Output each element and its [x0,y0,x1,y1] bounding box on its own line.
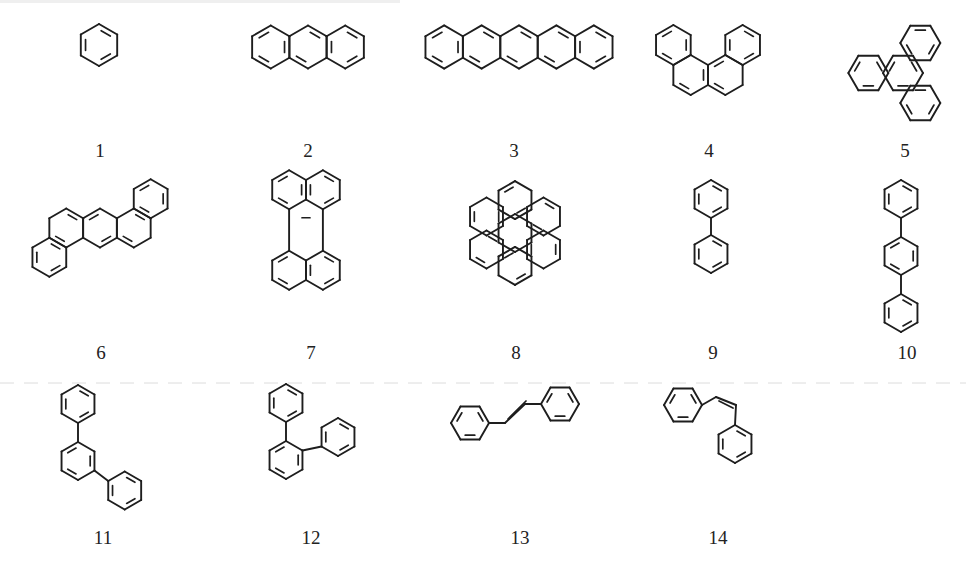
bond [463,25,482,36]
bond [664,405,674,421]
bond [480,407,490,423]
structure-p-terphenyl [885,180,918,332]
double-bond [140,207,148,212]
double-bond [101,31,110,36]
bond [664,389,674,405]
double-bond [877,62,882,71]
double-bond [478,413,483,421]
double-bond [507,56,516,61]
double-bond [521,32,530,37]
double-bond [545,204,553,209]
bond [286,441,302,451]
double-bond [276,468,284,473]
bond [289,26,308,37]
bond [323,251,340,261]
bond [323,280,340,290]
bond [900,26,910,43]
double-bond [347,56,356,61]
bond [289,251,306,261]
compound-label-3: 3 [509,140,519,161]
double-bond [907,45,912,54]
double-bond [596,32,605,37]
structure-coronene [470,181,560,285]
double-bond [713,186,721,191]
bond [81,24,99,35]
double-bond [505,187,513,192]
compound-label-11: 11 [94,527,112,548]
bond [505,404,525,423]
bond [693,389,703,405]
bond [656,55,673,65]
bond [515,275,531,285]
double-bond [691,395,696,403]
bond [117,238,134,248]
bond [711,209,727,219]
compound-label-5: 5 [900,140,910,161]
double-bond [508,401,526,419]
bond [693,405,703,421]
double-bond [80,391,88,396]
double-bond [476,258,484,263]
double-bond [891,264,899,269]
bond [695,180,711,190]
double-bond [680,84,689,89]
compound-label-2: 2 [303,140,313,161]
bond [900,86,910,103]
bond [270,384,286,394]
bond [32,267,49,277]
double-bond [325,257,333,262]
bond [134,179,151,189]
double-bond [68,469,76,474]
double-bond [670,395,675,403]
bond [500,58,519,69]
bond [499,275,515,285]
bond [900,103,910,120]
bond [482,25,501,36]
double-bond [470,56,479,61]
structure-anthracene [252,26,364,69]
bond [878,56,888,73]
double-bond [737,452,745,457]
bond [252,26,271,37]
bond [743,55,760,65]
double-bond [713,241,721,246]
bond [306,280,323,290]
bond [151,179,168,189]
bond [100,238,117,248]
bond [878,73,888,90]
double-bond [340,424,348,429]
bond [99,56,117,67]
bond [32,238,49,248]
compound-label-9: 9 [708,342,718,363]
bond [930,26,940,43]
bond [901,294,917,304]
bond [308,26,327,37]
bond [930,43,940,60]
bond [885,294,901,304]
double-bond [433,56,442,61]
bond [930,103,940,120]
bond [673,85,690,95]
double-bond [347,32,356,37]
bond [487,259,503,269]
bond [49,209,66,219]
structure-trans-stilbene [451,388,579,440]
compound-label-1: 1 [95,140,105,161]
bond [594,58,613,69]
bond [725,85,742,95]
bond [538,58,557,69]
bond [885,266,901,276]
bond [482,58,501,69]
bond [711,180,727,190]
double-bond [547,394,552,402]
bond [901,237,917,247]
bond [901,266,917,276]
bond [519,25,538,36]
double-bond [340,445,348,450]
bond [306,251,323,261]
bond [451,423,461,439]
bond [270,441,286,451]
bond [117,209,134,219]
double-bond [136,215,145,220]
bond [487,198,503,208]
